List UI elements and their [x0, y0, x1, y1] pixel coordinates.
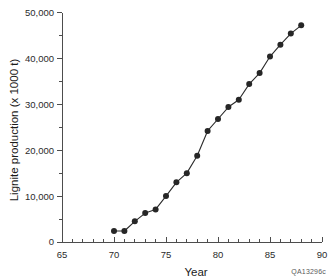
data-point [163, 193, 169, 199]
data-point [184, 170, 190, 176]
data-point [298, 22, 304, 28]
y-tick-label: 40,000 [25, 53, 54, 64]
y-tick-label: 10,000 [25, 191, 54, 202]
data-point [205, 128, 211, 134]
data-point [236, 97, 242, 103]
x-tick-label: 70 [109, 249, 120, 260]
data-point [132, 218, 138, 224]
data-point [257, 70, 263, 76]
y-tick-label: 30,000 [25, 99, 54, 110]
x-axis-title: Year [184, 266, 207, 278]
data-point [173, 179, 179, 185]
y-tick-label: 0 [49, 236, 54, 247]
lignite-production-chart: 010,00020,00030,00040,00050,000 65707580… [0, 0, 329, 280]
x-tick-label: 85 [265, 249, 276, 260]
x-tick-label: 65 [57, 249, 68, 260]
data-point [277, 42, 283, 48]
x-tick-label: 75 [161, 249, 172, 260]
data-point [246, 81, 252, 87]
y-axis-title: Lignite production (x 1000 t) [8, 59, 20, 202]
data-point [288, 31, 294, 37]
data-point [215, 116, 221, 122]
data-point [153, 206, 159, 212]
data-point [121, 228, 127, 234]
x-tick-label: 90 [317, 249, 328, 260]
data-series [111, 22, 304, 234]
chart-canvas: 010,00020,00030,00040,00050,000 65707580… [0, 0, 329, 280]
x-tick-label: 80 [213, 249, 224, 260]
data-point [142, 210, 148, 216]
x-axis: 657075808590 [57, 237, 328, 260]
y-tick-label: 50,000 [25, 7, 54, 18]
source-code-watermark: QA13296c [291, 268, 326, 276]
data-point [111, 228, 117, 234]
data-point [225, 104, 231, 110]
y-tick-label: 20,000 [25, 145, 54, 156]
data-point [194, 153, 200, 159]
data-point [267, 54, 273, 60]
y-axis: 010,00020,00030,00040,00050,000 [25, 7, 62, 248]
